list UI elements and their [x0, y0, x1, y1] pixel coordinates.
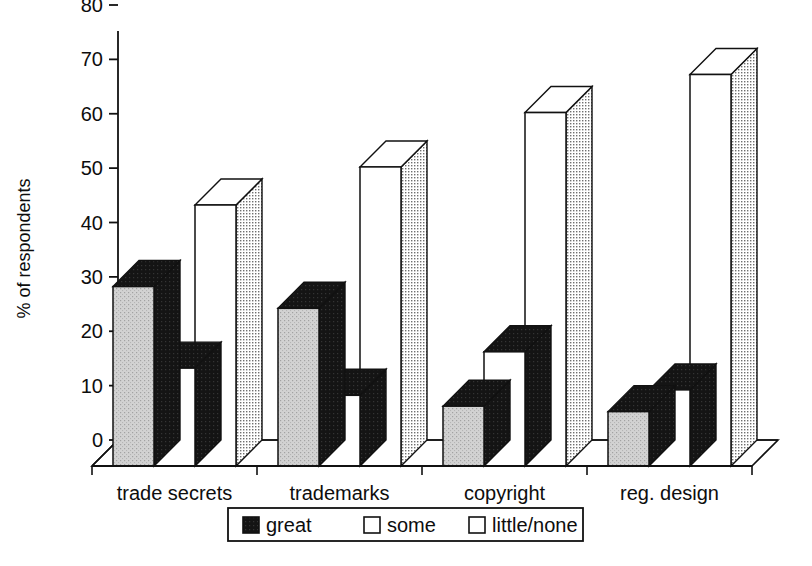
legend-swatch-some-icon — [364, 517, 380, 533]
y-axis-tick-label: 50 — [81, 157, 103, 179]
bar-side-face — [401, 141, 427, 466]
y-axis-tick-label: 0 — [92, 429, 103, 451]
y-axis-tick-label: 80 — [81, 0, 103, 16]
bar-side-face — [154, 261, 180, 466]
legend-swatch-little-none-icon — [469, 517, 485, 533]
legend-label: little/none — [492, 514, 578, 536]
y-axis-tick-label: 30 — [81, 266, 103, 288]
y-axis-tick-label: 10 — [81, 375, 103, 397]
y-axis-title: % of respondents — [14, 178, 34, 318]
bar-3d — [113, 261, 180, 466]
x-axis-category-label: reg. design — [620, 482, 719, 504]
bar-3d — [278, 282, 345, 466]
y-axis-tick-label: 40 — [81, 212, 103, 234]
bar-front-face — [113, 287, 154, 466]
legend-swatch-great-icon — [243, 517, 259, 533]
legend-label: great — [266, 514, 312, 536]
legend-item[interactable]: some — [364, 514, 436, 536]
x-axis-category-label: trademarks — [289, 482, 389, 504]
y-axis-tick-label: 70 — [81, 48, 103, 70]
bar-front-face — [443, 406, 484, 466]
category-labels: trade secretstrademarkscopyrightreg. des… — [92, 466, 752, 504]
bar-side-face — [566, 87, 592, 466]
bar-side-face — [731, 49, 757, 467]
legend-item[interactable]: little/none — [469, 514, 578, 536]
chart-legend: greatsomelittle/none — [228, 508, 583, 541]
bar-side-face — [319, 282, 345, 466]
x-axis-category-label: copyright — [464, 482, 546, 504]
bars-layer — [113, 49, 757, 467]
bar-front-face — [608, 412, 649, 466]
bar-front-face — [278, 308, 319, 466]
bar-chart: 01020304050607080% of respondents trade … — [0, 0, 812, 566]
y-axis-tick-label: 60 — [81, 103, 103, 125]
legend-item[interactable]: great — [243, 514, 312, 536]
bar-side-face — [236, 179, 262, 466]
chart-container: 01020304050607080% of respondents trade … — [0, 0, 812, 566]
y-axis: 01020304050607080% of respondents — [14, 0, 118, 466]
legend-label: some — [387, 514, 436, 536]
y-axis-tick-label: 20 — [81, 320, 103, 342]
x-axis-category-label: trade secrets — [117, 482, 233, 504]
